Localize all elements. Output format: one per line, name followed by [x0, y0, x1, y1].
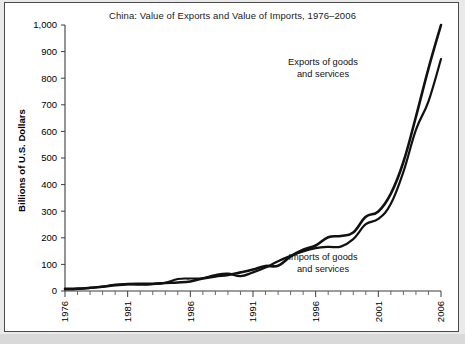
y-tick-label: 100 — [41, 259, 57, 270]
y-tick-label: 700 — [41, 99, 57, 110]
y-tick-label: 600 — [41, 126, 57, 137]
data-series-group — [65, 25, 441, 289]
annotation-label-exports: and services — [297, 69, 350, 79]
y-axis-ticks — [61, 25, 65, 291]
x-axis-minor-ticks — [65, 291, 441, 297]
series-line-imports — [65, 59, 441, 289]
y-axis-tick-labels: 01002003004005006007008009001,000 — [33, 19, 57, 296]
chart-frame: China: Value of Exports and Value of Imp… — [4, 2, 459, 332]
x-axis-group: 1976198119861991199620012006 — [59, 291, 446, 322]
figure-root: China: Value of Exports and Value of Imp… — [0, 0, 465, 344]
annotation-label-imports: and services — [297, 264, 350, 274]
annotation-label-exports: Exports of goods — [288, 57, 358, 67]
annotation-label-imports: Imports of goods — [288, 252, 358, 262]
series-line-exports — [65, 25, 441, 289]
bottom-strip — [0, 334, 465, 344]
y-axis-group: 01002003004005006007008009001,000 — [33, 19, 65, 296]
x-tick-label: 1991 — [247, 301, 258, 322]
x-tick-label: 1986 — [185, 301, 196, 322]
y-tick-label: 1,000 — [33, 19, 57, 30]
x-tick-label: 1996 — [310, 301, 321, 322]
x-tick-label: 2001 — [373, 301, 384, 322]
y-tick-label: 800 — [41, 73, 57, 84]
x-tick-label: 1981 — [122, 301, 133, 322]
y-tick-label: 500 — [41, 152, 57, 163]
y-tick-label: 400 — [41, 179, 57, 190]
y-tick-label: 0 — [52, 285, 57, 296]
x-tick-label: 2006 — [435, 301, 446, 322]
line-chart-plot: 01002003004005006007008009001,000 197619… — [5, 3, 460, 333]
x-axis-tick-labels: 1976198119861991199620012006 — [59, 301, 446, 322]
y-tick-label: 300 — [41, 206, 57, 217]
y-tick-label: 200 — [41, 232, 57, 243]
x-tick-label: 1976 — [59, 301, 70, 322]
y-tick-label: 900 — [41, 46, 57, 57]
